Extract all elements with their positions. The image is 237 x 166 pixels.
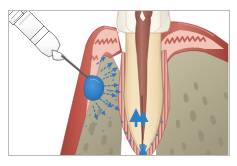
dental-cross-section-illustration <box>0 0 237 166</box>
dental-injection-figure <box>0 0 237 166</box>
anesthetic-bolus <box>84 76 104 101</box>
